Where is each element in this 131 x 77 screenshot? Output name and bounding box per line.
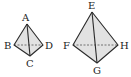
vertex-label-e: E: [88, 0, 95, 11]
small-tetrahedron: A B D C: [4, 12, 53, 69]
vertex-label-h: H: [120, 40, 129, 51]
large-tetrahedron-faces: [73, 12, 118, 63]
vertex-label-f: F: [63, 40, 70, 51]
vertex-label-a: A: [21, 12, 30, 23]
tetrahedra-diagram: A B D C E F H G: [0, 0, 131, 77]
large-tetrahedron: E F H G: [63, 0, 129, 76]
vertex-label-d: D: [45, 40, 53, 51]
vertex-label-b: B: [4, 40, 11, 51]
vertex-label-c: C: [26, 58, 34, 69]
vertex-label-g: G: [93, 65, 101, 76]
